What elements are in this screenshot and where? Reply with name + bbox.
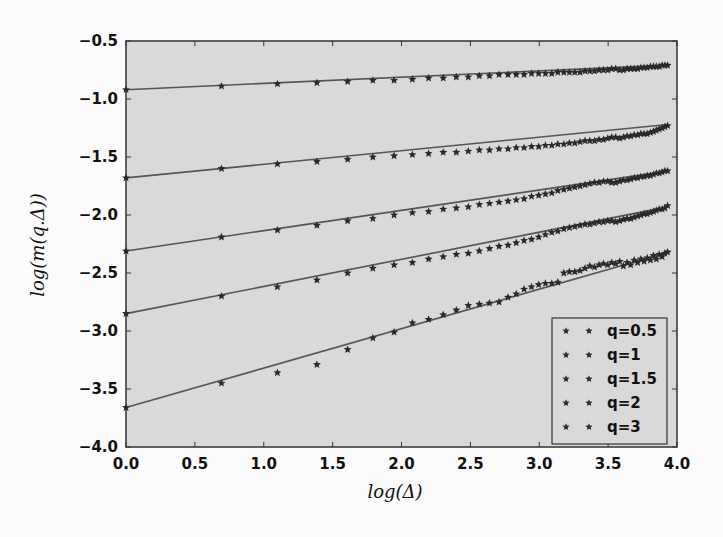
y-tick-label: −2.5 <box>79 264 118 282</box>
x-tick-label: 0.5 <box>182 455 209 473</box>
x-tick-label: 1.0 <box>250 455 277 473</box>
y-tick-label: −2.0 <box>79 206 118 224</box>
y-tick-label: −1.0 <box>79 90 118 108</box>
legend: q=0.5q=1q=1.5q=2q=3 <box>552 318 667 444</box>
x-tick-label: 1.5 <box>319 455 346 473</box>
legend-label: q=1.5 <box>607 370 657 388</box>
y-tick-label: −3.0 <box>79 322 118 340</box>
x-tick-label: 4.0 <box>664 455 691 473</box>
y-axis-label: log(m(q.Δ)) <box>27 193 48 297</box>
legend-label: q=3 <box>607 418 641 436</box>
x-tick-label: 3.0 <box>526 455 553 473</box>
x-axis-label: log(Δ) <box>367 481 422 502</box>
y-tick-label: −0.5 <box>79 32 118 50</box>
legend-label: q=2 <box>607 394 641 412</box>
y-tick-label: −3.5 <box>79 380 118 398</box>
legend-label: q=0.5 <box>607 322 657 340</box>
y-tick-label: −4.0 <box>79 438 118 456</box>
x-tick-label: 2.5 <box>457 455 484 473</box>
chart: 0.00.51.01.52.02.53.03.54.0 −0.5−1.0−1.5… <box>0 0 723 537</box>
legend-label: q=1 <box>607 346 641 364</box>
x-tick-label: 0.0 <box>113 455 140 473</box>
x-tick-label: 2.0 <box>388 455 415 473</box>
y-tick-label: −1.5 <box>79 148 118 166</box>
x-tick-label: 3.5 <box>595 455 622 473</box>
